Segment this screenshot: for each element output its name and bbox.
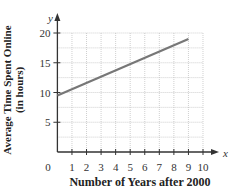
x-tick-label: 8 (171, 161, 177, 173)
x-tick-label: 3 (98, 161, 104, 173)
y-tick-label: 15 (39, 57, 51, 69)
data-line (57, 39, 188, 96)
x-tick-label: 5 (127, 161, 133, 173)
y-axis-label-line2: (in hours) (13, 15, 25, 165)
x-axis-symbol: x (222, 147, 228, 159)
x-tick-label: 9 (186, 161, 192, 173)
y-axis-arrow-icon (54, 13, 60, 21)
y-tick-label: 20 (39, 27, 51, 39)
y-axis-label-line1: Average Time Spent Online (1, 15, 13, 165)
x-tick-label: 10 (198, 161, 210, 173)
x-tick-label: 4 (113, 161, 119, 173)
y-axis-symbol: y (47, 12, 53, 24)
x-tick-label: 6 (142, 161, 148, 173)
x-tick-label: 1 (69, 161, 75, 173)
x-tick-label: 2 (84, 161, 90, 173)
y-axis-label: Average Time Spent Online (in hours) (1, 15, 25, 165)
y-tick-label: 10 (39, 87, 51, 99)
x-axis-arrow-icon (211, 149, 219, 155)
origin-label: 0 (45, 161, 51, 173)
x-axis-label: Number of Years after 2000 (60, 175, 220, 190)
chart: 1234567891051015200xy (0, 0, 232, 193)
y-tick-label: 5 (45, 116, 51, 128)
x-tick-label: 7 (157, 161, 163, 173)
